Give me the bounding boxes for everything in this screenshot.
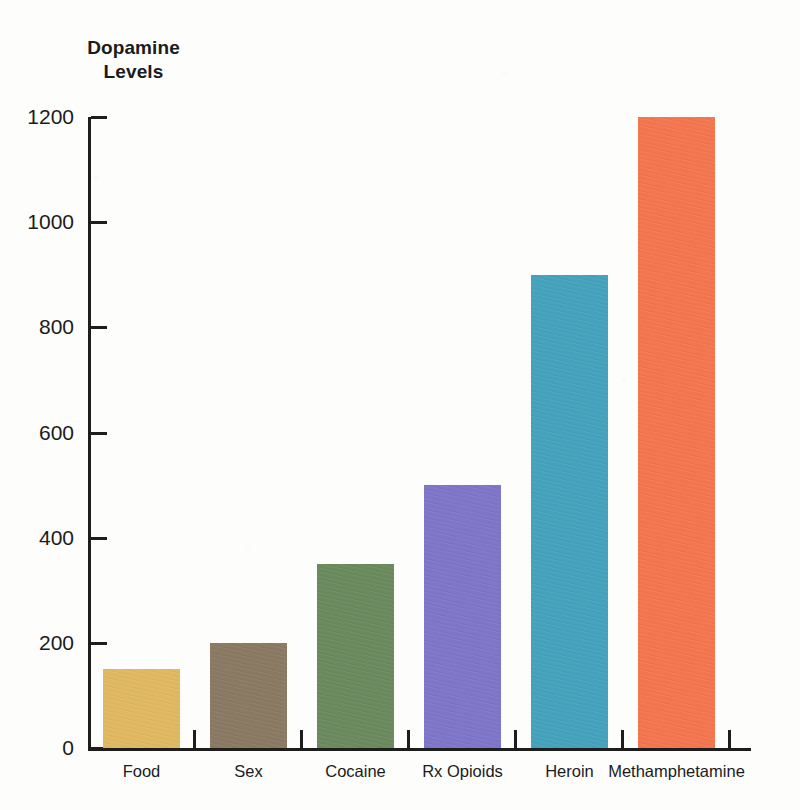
y-axis-tick [91, 432, 107, 435]
bar-methamphetamine[interactable] [638, 117, 715, 748]
y-axis-tick [91, 326, 107, 329]
x-axis-tick [514, 730, 517, 748]
y-axis-tick [91, 642, 107, 645]
bar-rx-opioids[interactable] [424, 485, 501, 748]
category-label-methamphetamine: Methamphetamine [587, 762, 767, 781]
y-axis-tick-label: 0 [0, 737, 74, 758]
bar-sex[interactable] [210, 643, 287, 748]
y-axis-tick [91, 116, 107, 119]
y-axis-tick [91, 221, 107, 224]
bar-food[interactable] [103, 669, 180, 748]
x-axis-tick [88, 730, 91, 748]
x-axis-tick [193, 730, 196, 748]
y-axis-tick-label: 600 [0, 422, 74, 443]
y-axis-tick-label: 1200 [0, 106, 74, 127]
y-axis-tick-label: 400 [0, 527, 74, 548]
x-axis-tick [728, 730, 731, 748]
y-axis-tick-label: 800 [0, 316, 74, 337]
x-axis-tick [407, 730, 410, 748]
plot-area: 020040060080010001200 FoodSexCocaineRx O… [0, 0, 800, 810]
x-axis-line [88, 748, 751, 751]
y-axis-tick [91, 537, 107, 540]
y-axis-tick-label: 1000 [0, 211, 74, 232]
bar-cocaine[interactable] [317, 564, 394, 748]
bar-chart-figure: Dopamine Levels 020040060080010001200 Fo… [0, 0, 800, 810]
x-axis-tick [300, 730, 303, 748]
y-axis-tick-label: 200 [0, 632, 74, 653]
x-axis-tick [621, 730, 624, 748]
bar-heroin[interactable] [531, 275, 608, 748]
